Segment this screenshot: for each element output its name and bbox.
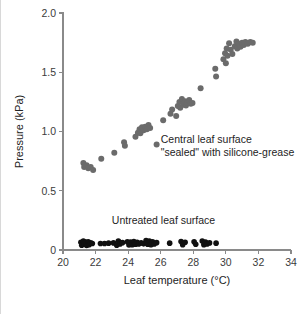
y-axis-title: Pressure (kPa): [13, 95, 25, 168]
data-point-untreated: [213, 240, 219, 246]
data-point-sealed: [223, 60, 229, 66]
data-point-sealed: [229, 51, 235, 57]
x-tick-label: 22: [90, 256, 102, 268]
y-tick-label: 0: [50, 244, 56, 256]
sealed-annotation-line: "sealed" with silicone-grease: [161, 146, 295, 158]
data-point-sealed: [154, 142, 160, 148]
data-point-sealed: [147, 125, 153, 131]
y-tick-label: 1.5: [41, 66, 56, 78]
data-point-sealed: [173, 113, 179, 119]
annotations: Central leaf surface"sealed" with silico…: [112, 133, 295, 226]
data-point-sealed: [250, 40, 256, 46]
data-point-untreated: [120, 240, 126, 246]
untreated-annotation: Untreated leaf surface: [112, 214, 215, 226]
data-point-sealed: [198, 85, 204, 91]
data-point-sealed: [90, 167, 96, 173]
data-point-sealed: [212, 66, 218, 72]
x-tick-label: 30: [220, 256, 232, 268]
x-tick-label: 34: [285, 256, 297, 268]
y-tick-label: 2.0: [41, 7, 56, 19]
data-point-untreated: [182, 240, 188, 246]
data-point-untreated: [167, 240, 173, 246]
data-point-sealed: [169, 107, 175, 113]
data-point-sealed: [111, 150, 117, 156]
scatter-plot: 00.51.01.52.02022242628303234Leaf temper…: [1, 0, 305, 314]
sealed-annotation-line: Central leaf surface: [161, 133, 252, 145]
y-tick-label: 0.5: [41, 185, 56, 197]
series-untreated: [78, 238, 219, 249]
x-tick-label: 28: [187, 256, 199, 268]
x-axis-title: Leaf temperature (°C): [124, 274, 231, 286]
x-tick-label: 24: [122, 256, 134, 268]
data-point-untreated: [106, 240, 112, 246]
data-point-sealed: [98, 156, 104, 162]
data-point-sealed: [160, 117, 166, 123]
data-point-untreated: [154, 240, 160, 246]
x-tick-label: 26: [155, 256, 167, 268]
data-point-untreated: [207, 240, 213, 246]
y-tick-label: 1.0: [41, 125, 56, 137]
chart-figure: 00.51.01.52.02022242628303234Leaf temper…: [0, 0, 305, 314]
data-point-sealed: [122, 143, 128, 149]
data-point-sealed: [226, 40, 232, 46]
x-tick-label: 32: [253, 256, 265, 268]
data-point-sealed: [189, 100, 195, 106]
data-point-sealed: [213, 73, 219, 79]
data-point-untreated: [193, 242, 199, 248]
sealed-annotation: Central leaf surface"sealed" with silico…: [161, 133, 295, 158]
untreated-annotation-line: Untreated leaf surface: [112, 214, 215, 226]
x-tick-label: 20: [57, 256, 69, 268]
data-point-untreated: [90, 241, 96, 247]
